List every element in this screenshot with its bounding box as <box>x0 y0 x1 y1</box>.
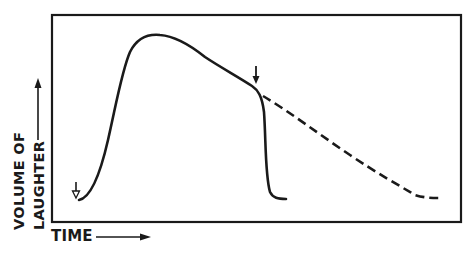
interruption-arrow-icon <box>253 66 260 84</box>
dashed-laughter-curve <box>263 96 440 198</box>
y-axis-label: VOLUME OF LAUGHTER <box>6 78 52 230</box>
x-axis-label: TIME <box>51 229 93 244</box>
diagram-canvas <box>0 0 473 256</box>
start-arrow-icon <box>73 182 80 198</box>
laughter-diagram: VOLUME OF LAUGHTER TIME <box>0 0 473 256</box>
x-axis-arrow-icon <box>96 234 151 241</box>
solid-laughter-curve <box>79 35 286 200</box>
y-axis-label-line1: VOLUME OF <box>12 132 27 230</box>
y-axis-label-line2: LAUGHTER <box>32 141 47 230</box>
